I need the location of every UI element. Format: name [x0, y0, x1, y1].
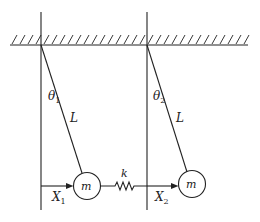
theta1-label: θ1: [48, 89, 60, 105]
length1-label: L: [69, 111, 78, 125]
length2-label: L: [175, 111, 184, 125]
spring-constant-label: k: [121, 167, 128, 180]
spring: [101, 182, 148, 190]
mass2-label: m: [186, 178, 196, 191]
x1-label: X1: [51, 190, 66, 206]
x1-arrowhead-icon: [66, 183, 74, 189]
x2-label: X2: [154, 190, 169, 206]
pendulum-diagram: θ1 θ2 L L m m k X1 X2: [0, 0, 260, 222]
theta2-label: θ2: [153, 89, 165, 105]
pendulum-rod-1: [41, 45, 82, 173]
mass1-label: m: [81, 180, 91, 193]
x2-arrowhead-icon: [171, 183, 179, 189]
pendulum-rod-2: [147, 45, 187, 172]
ceiling-hatching: [12, 35, 249, 44]
